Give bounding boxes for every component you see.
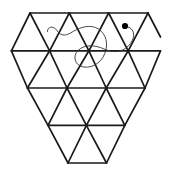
figure-canvas [0,0,173,170]
marker-dot [122,23,128,29]
triangular-lattice-diagram [0,0,173,170]
